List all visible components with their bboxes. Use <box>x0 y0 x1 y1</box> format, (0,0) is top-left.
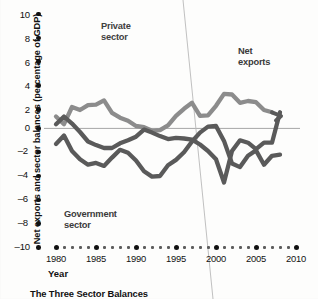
x-minor-dot-1989 <box>127 246 129 248</box>
annotation-private-sector-line2: sector <box>101 32 131 43</box>
x-tick-label-1985: 1985 <box>79 253 113 264</box>
x-minor-dot-1999 <box>207 246 209 248</box>
x-minor-dot-1996 <box>183 246 185 248</box>
x-minor-dot-2009 <box>287 246 289 248</box>
annotation-net-exports: Net exports <box>238 46 270 67</box>
x-minor-dot-1991 <box>143 246 145 248</box>
annotation-government-sector-line2: sector <box>64 220 117 231</box>
x-tick-dot-1995 <box>174 245 179 250</box>
x-minor-dot-2008 <box>279 246 281 248</box>
annotation-net-exports-line1: Net <box>238 46 270 57</box>
x-minor-dot-2004 <box>247 246 249 248</box>
x-minor-dot-2002 <box>231 246 233 248</box>
x-minor-dot-1982 <box>71 246 73 248</box>
x-minor-dot-1993 <box>159 246 161 248</box>
y-tick-dot-neg2 <box>36 150 41 155</box>
x-minor-dot-1987 <box>111 246 113 248</box>
x-tick-dot-1985 <box>94 245 99 250</box>
chart-figure: Net exports and sector balances (percent… <box>0 0 318 299</box>
x-minor-dot-2006 <box>263 246 265 248</box>
series-private-sector <box>56 94 272 131</box>
y-tick-dot-neg10 <box>36 245 41 250</box>
x-minor-dot-1981 <box>63 246 65 248</box>
x-tick-dot-1990 <box>134 245 139 250</box>
x-tick-label-2010: 2010 <box>279 253 313 264</box>
y-tick-label-neg8: –8 <box>6 217 28 228</box>
x-minor-dot-1992 <box>151 246 153 248</box>
x-tick-label-1995: 1995 <box>159 253 193 264</box>
y-tick-label-neg4: –4 <box>6 169 28 180</box>
x-axis-title: Year <box>48 268 68 279</box>
y-tick-label-neg2: –2 <box>6 145 28 156</box>
annotation-net-exports-line2: exports <box>238 57 270 68</box>
y-tick-label-10: 10 <box>8 9 30 20</box>
y-tick-label-2: 2 <box>8 104 30 115</box>
y-tick-label-4: 4 <box>8 80 30 91</box>
annotation-private-sector: Private sector <box>101 21 131 42</box>
annotation-government-sector: Government sector <box>64 209 117 230</box>
y-tick-dot-neg8 <box>36 221 41 226</box>
series-net-exports-tail <box>272 112 281 120</box>
y-tick-dot-10 <box>36 12 41 17</box>
y-tick-label-6: 6 <box>8 57 30 68</box>
y-tick-dot-neg6 <box>36 198 41 203</box>
x-minor-dot-2003 <box>239 246 241 248</box>
figure-caption: The Three Sector Balances <box>30 288 148 299</box>
x-tick-label-2000: 2000 <box>199 253 233 264</box>
y-tick-dot-neg4 <box>36 174 41 179</box>
series-government-sector <box>56 126 280 177</box>
x-minor-dot-1998 <box>199 246 201 248</box>
y-tick-label-neg6: –6 <box>6 193 28 204</box>
x-tick-dot-2010 <box>294 245 299 250</box>
x-tick-dot-2005 <box>254 245 259 250</box>
annotation-private-sector-line1: Private <box>101 21 131 32</box>
y-tick-dot-8 <box>36 36 41 41</box>
y-tick-label-neg10: –10 <box>2 241 30 252</box>
x-minor-dot-2007 <box>271 246 273 248</box>
x-tick-label-2005: 2005 <box>239 253 273 264</box>
x-tick-dot-2000 <box>214 245 219 250</box>
annotation-government-sector-line1: Government <box>64 209 117 220</box>
x-tick-label-1990: 1990 <box>119 253 153 264</box>
x-minor-dot-1986 <box>103 246 105 248</box>
x-minor-dot-1997 <box>191 246 193 248</box>
y-tick-label-0: 0 <box>8 122 30 133</box>
x-tick-label-1980: 1980 <box>39 253 73 264</box>
x-minor-dot-1994 <box>167 246 169 248</box>
x-tick-dot-1980 <box>54 245 59 250</box>
x-minor-dot-2001 <box>223 246 225 248</box>
x-minor-dot-1988 <box>119 246 121 248</box>
x-minor-dot-1984 <box>87 246 89 248</box>
y-tick-dot-2 <box>36 107 41 112</box>
y-tick-dot-6 <box>36 59 41 64</box>
y-tick-dot-0 <box>36 126 41 131</box>
x-minor-dot-1983 <box>79 246 81 248</box>
y-tick-label-8: 8 <box>8 33 30 44</box>
y-tick-dot-4 <box>36 83 41 88</box>
